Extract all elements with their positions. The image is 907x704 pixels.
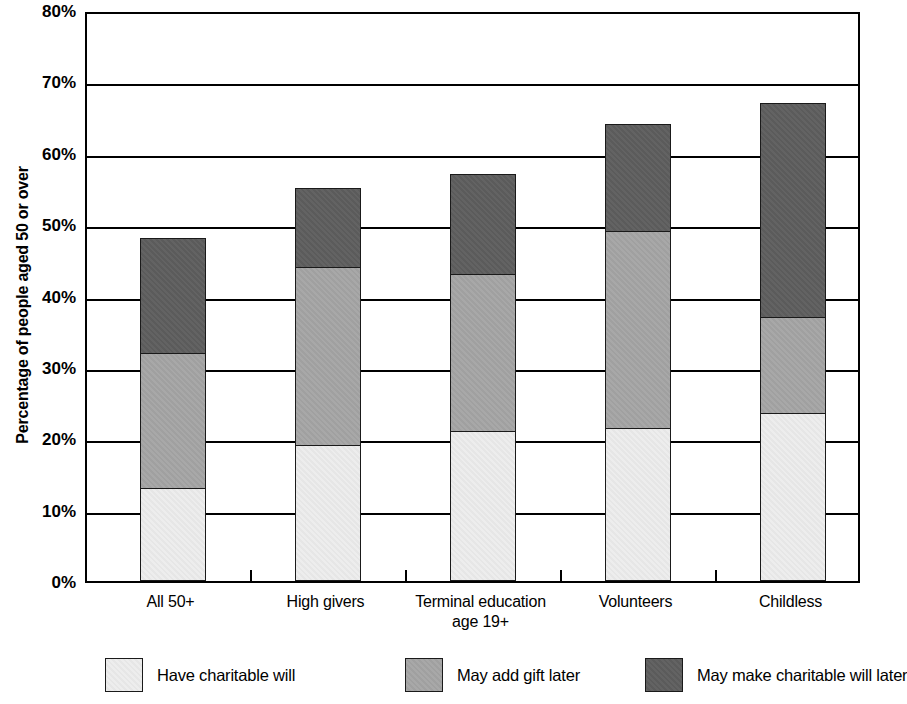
bar-group[interactable] xyxy=(605,10,671,581)
y-axis-tick-label: 80% xyxy=(6,3,76,20)
bar-segment[interactable] xyxy=(295,267,361,445)
x-axis-category-label: All 50+ xyxy=(93,592,248,612)
x-axis-category-label: Volunteers xyxy=(558,592,713,612)
x-axis-category-label: High givers xyxy=(248,592,403,612)
legend-item[interactable]: May make charitable will later xyxy=(645,655,907,695)
dark-gray-swatch xyxy=(645,658,683,692)
bar-segment[interactable] xyxy=(140,353,206,489)
bar-group[interactable] xyxy=(295,10,361,581)
x-axis-category-label: Terminal educationage 19+ xyxy=(403,592,558,632)
x-axis-tick xyxy=(715,570,717,581)
legend-item[interactable]: Have charitable will xyxy=(105,655,295,695)
x-axis-tick xyxy=(560,570,562,581)
bar-group[interactable] xyxy=(760,10,826,581)
y-axis-tick-label: 60% xyxy=(6,146,76,163)
legend-label: May make charitable will later xyxy=(697,666,907,685)
bar-segment[interactable] xyxy=(450,274,516,431)
chart-legend: Have charitable willMay add gift laterMa… xyxy=(85,655,862,699)
x-axis-category-label: Childless xyxy=(713,592,868,612)
bars-layer xyxy=(87,14,858,581)
bar-segment[interactable] xyxy=(760,103,826,317)
bar-segment[interactable] xyxy=(760,413,826,581)
bar-segment[interactable] xyxy=(295,188,361,267)
y-axis-tick-label: 20% xyxy=(6,431,76,448)
bar-group[interactable] xyxy=(140,10,206,581)
y-axis-tick-label: 40% xyxy=(6,289,76,306)
x-axis-category-labels: All 50+High giversTerminal educationage … xyxy=(85,592,860,646)
y-axis-tick-label: 50% xyxy=(6,217,76,234)
y-axis-tick-label: 30% xyxy=(6,360,76,377)
bar-segment[interactable] xyxy=(605,428,671,581)
bar-segment[interactable] xyxy=(605,231,671,427)
y-axis-tick-label: 0% xyxy=(6,574,76,591)
bar-segment[interactable] xyxy=(295,445,361,581)
legend-label: May add gift later xyxy=(457,666,580,685)
legend-item[interactable]: May add gift later xyxy=(405,655,580,695)
bar-segment[interactable] xyxy=(140,488,206,581)
bar-segment[interactable] xyxy=(450,174,516,274)
bar-segment[interactable] xyxy=(450,431,516,581)
light-gray-swatch xyxy=(105,658,143,692)
plot-area xyxy=(85,12,860,583)
y-axis-tick-label: 10% xyxy=(6,503,76,520)
bar-group[interactable] xyxy=(450,10,516,581)
bar-segment[interactable] xyxy=(605,124,671,231)
x-axis-tick xyxy=(250,570,252,581)
legend-label: Have charitable will xyxy=(157,666,295,685)
mid-gray-swatch xyxy=(405,658,443,692)
y-axis-tick-label: 70% xyxy=(6,74,76,91)
bar-segment[interactable] xyxy=(760,317,826,413)
bar-segment[interactable] xyxy=(140,238,206,352)
x-axis-tick xyxy=(405,570,407,581)
